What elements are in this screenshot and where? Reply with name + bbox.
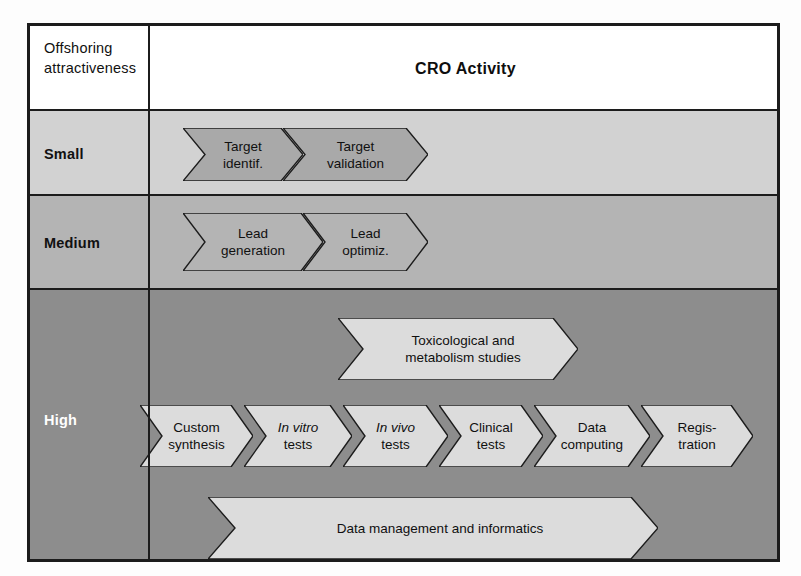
arrow-label-line1: In vivo	[376, 420, 415, 435]
figure-frame: Offshoringattractiveness CRO Activity Sm…	[27, 23, 780, 562]
arrow-custom-synthesis: Custom synthesis	[140, 405, 253, 467]
arrow-label-line2: validation	[327, 156, 384, 171]
arrow-label: In vitro tests	[278, 419, 319, 453]
small-row: Small Target identif. Target validatio	[30, 111, 777, 196]
arrow-label: Regis- tration	[677, 419, 716, 453]
high-row: High Toxicological and metabolism studie…	[30, 290, 777, 559]
arrow-label-line2: tests	[284, 437, 313, 452]
row-label-medium: Medium	[44, 235, 100, 251]
arrow-label: Target validation	[327, 138, 384, 172]
arrow-label: Clinical tests	[469, 419, 513, 453]
arrow-data-computing: Data computing	[534, 405, 650, 467]
arrow-label-line1: Lead	[238, 226, 268, 241]
arrow-label: In vivo tests	[376, 419, 415, 453]
arrow-label: Data management and informatics	[323, 520, 543, 537]
arrow-data-management-informatics: Data management and informatics	[208, 497, 658, 559]
column-divider	[148, 26, 150, 559]
row-label-high: High	[44, 412, 77, 428]
arrow-in-vivo-tests: In vivo tests	[343, 405, 448, 467]
arrow-label-line1: Lead	[350, 226, 380, 241]
arrow-label-line1: In vitro	[278, 420, 319, 435]
row-label-small: Small	[44, 146, 84, 162]
arrow-label-line1: Clinical	[469, 420, 513, 435]
arrow-registration: Regis- tration	[641, 405, 753, 467]
arrow-label-line2: generation	[221, 243, 285, 258]
figure-canvas: Offshoringattractiveness CRO Activity Sm…	[0, 0, 801, 576]
arrow-clinical-tests: Clinical tests	[439, 405, 543, 467]
arrow-target-validation: Target validation	[283, 128, 428, 181]
arrow-label-line1: Target	[224, 139, 262, 154]
arrow-label-line2: metabolism studies	[405, 350, 521, 365]
offshoring-attractiveness-label: Offshoringattractiveness	[44, 38, 136, 78]
arrow-lead-generation: Lead generation	[183, 213, 323, 271]
arrow-label-line2: computing	[561, 437, 623, 452]
arrow-label-line1: Custom	[173, 420, 220, 435]
arrow-label: Lead optimiz.	[342, 225, 389, 259]
arrow-label: Target identif.	[223, 138, 263, 172]
arrow-label: Data computing	[561, 419, 623, 453]
arrow-label-line1: Target	[337, 139, 375, 154]
arrow-label-line1: Toxicological and	[412, 333, 515, 348]
arrow-label: Toxicological and metabolism studies	[395, 332, 521, 366]
arrow-in-vitro-tests: In vitro tests	[244, 405, 352, 467]
arrow-label-line1: Data	[578, 420, 607, 435]
arrow-label-line2: identif.	[223, 156, 263, 171]
arrow-label-line2: tests	[381, 437, 410, 452]
arrow-label-line1: Regis-	[677, 420, 716, 435]
header-row: Offshoringattractiveness CRO Activity	[30, 26, 777, 111]
cro-activity-title: CRO Activity	[148, 26, 783, 111]
arrow-toxicological-metabolism: Toxicological and metabolism studies	[338, 318, 578, 380]
arrow-label: Lead generation	[221, 225, 285, 259]
arrow-label-line2: synthesis	[168, 437, 224, 452]
arrow-label-line2: tration	[678, 437, 716, 452]
arrow-label-line2: optimiz.	[342, 243, 389, 258]
medium-row: Medium Lead generation Lead optimiz.	[30, 196, 777, 290]
arrow-label-line2: tests	[477, 437, 506, 452]
arrow-lead-optimiz: Lead optimiz.	[303, 213, 428, 271]
arrow-label: Custom synthesis	[168, 419, 224, 453]
